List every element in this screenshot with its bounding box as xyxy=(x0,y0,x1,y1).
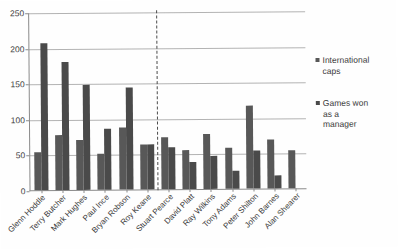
bar-group xyxy=(263,11,286,188)
bar-group xyxy=(72,13,95,190)
bar-won xyxy=(125,88,133,190)
legend-item-international-caps: International caps xyxy=(315,54,395,76)
bar-group xyxy=(93,13,116,190)
bar-won xyxy=(190,162,197,189)
bar-group xyxy=(135,12,158,189)
bar-caps xyxy=(267,140,274,189)
bar-group xyxy=(241,11,264,188)
ytick-label-200: 200 xyxy=(10,45,24,54)
plot-area: 250 200 150 100 50 0 xyxy=(28,11,306,191)
bar-won xyxy=(40,43,48,190)
bar-group xyxy=(199,12,222,189)
legend-item-games-won-as-a-manager: Games won as a manager xyxy=(316,97,396,129)
bar-won xyxy=(232,171,239,189)
bar-won xyxy=(147,144,154,189)
bar-group xyxy=(220,12,243,189)
bar-won xyxy=(211,156,218,189)
bar-group xyxy=(157,12,180,189)
bar-caps xyxy=(225,148,232,189)
ytick-label-250: 250 xyxy=(10,9,24,18)
legend-label-international-caps: International caps xyxy=(322,55,369,76)
ytick-label-0: 0 xyxy=(21,187,26,196)
ytick-label-150: 150 xyxy=(10,80,24,89)
bar-caps xyxy=(289,151,296,189)
bar-group xyxy=(284,11,307,188)
x-label-cell: Alan Shearer xyxy=(285,191,307,247)
bar-chart: 250 200 150 100 50 0 Glenn HoddleTerry B… xyxy=(0,0,398,250)
legend-label-games-won-as-a-manager: Games won as a manager xyxy=(323,98,369,130)
bar-won xyxy=(104,129,111,190)
bar-won xyxy=(168,147,175,189)
bar-group xyxy=(114,12,137,189)
x-axis-labels: Glenn HoddleTerry ButcherMark HughesPaul… xyxy=(30,191,307,249)
chart-legend: International caps Games won as a manage… xyxy=(315,54,396,151)
bar-groups xyxy=(29,11,306,190)
ytick-mark-0 xyxy=(27,191,30,192)
bar-group xyxy=(50,13,73,190)
legend-square-icon xyxy=(316,101,320,105)
bar-won xyxy=(275,175,282,188)
ytick-label-100: 100 xyxy=(11,116,25,125)
bar-group xyxy=(178,12,201,189)
bar-won xyxy=(61,62,69,190)
bar-caps xyxy=(246,106,254,189)
x-label-cell: Mark Hughes xyxy=(72,193,94,249)
legend-square-icon xyxy=(315,58,319,62)
bar-won xyxy=(83,84,91,190)
bar-won xyxy=(253,151,260,189)
ytick-label-50: 50 xyxy=(16,152,26,161)
bar-group xyxy=(29,13,52,190)
